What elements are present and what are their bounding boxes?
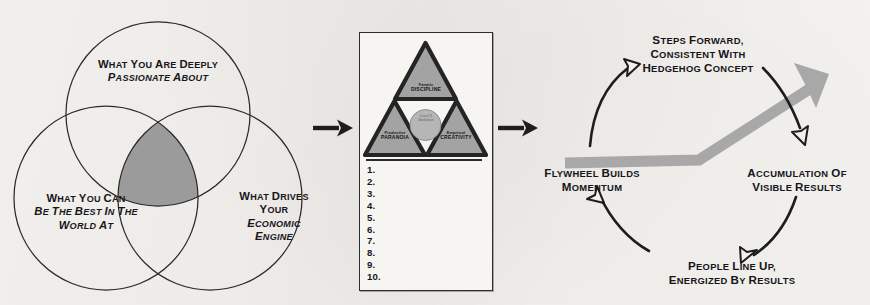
list-item[interactable]: 7. <box>367 235 477 247</box>
flywheel-label-line: HEDGEHOG CONCEPT <box>608 61 788 75</box>
flywheel-label-steps-forward: STEPS FORWARD, CONSISTENT WITH HEDGEHOG … <box>608 33 788 75</box>
list-item[interactable]: 3. <box>367 188 477 200</box>
flywheel-label-line: ACCUMULATION OF <box>726 166 868 180</box>
list-item[interactable]: 1. <box>367 164 477 176</box>
connector-arrow-2-icon <box>497 113 541 143</box>
flywheel-label-line: PEOPLE LINE UP, <box>648 259 816 273</box>
venn-label-line: ECONOMIC <box>222 217 326 230</box>
growth-arrow <box>565 63 829 163</box>
venn-label-line: WHAT YOU CAN <box>20 192 152 205</box>
list-item[interactable]: 8. <box>367 247 477 259</box>
connector-arrow-1-icon <box>312 113 356 143</box>
venn-label-passionate: WHAT YOU ARE DEEPLY PASSIONATE ABOUT <box>80 58 236 85</box>
venn-svg <box>8 6 308 302</box>
flywheel-label-momentum: FLYWHEEL BUILDS MOMENTUM <box>524 166 660 194</box>
venn-label-line: PASSIONATE ABOUT <box>80 71 236 84</box>
hedgehog-concept-venn: WHAT YOU ARE DEEPLY PASSIONATE ABOUT WHA… <box>8 6 308 302</box>
flywheel-label-line: MOMENTUM <box>524 180 660 194</box>
flywheel-label-line: FLYWHEEL BUILDS <box>524 166 660 180</box>
triangle-discipline <box>395 43 456 99</box>
list-item[interactable]: 6. <box>367 224 477 236</box>
flywheel-label-accumulation: ACCUMULATION OF VISIBLE RESULTS <box>726 166 868 194</box>
venn-label-line: WHAT DRIVES <box>222 190 326 203</box>
venn-label-line: WHAT YOU ARE DEEPLY <box>80 58 236 71</box>
venn-label-line: YOUR <box>222 203 326 216</box>
list-item[interactable]: 5. <box>367 212 477 224</box>
list-item[interactable]: 4. <box>367 200 477 212</box>
flywheel-label-people-line-up: PEOPLE LINE UP, ENERGIZED BY RESULTS <box>648 259 816 287</box>
venn-label-line: BE THE BEST IN THE <box>20 205 152 218</box>
flywheel-label-line: STEPS FORWARD, <box>608 33 788 47</box>
list-divider-rule <box>366 159 482 161</box>
diagram-page: WHAT YOU ARE DEEPLY PASSIONATE ABOUT WHA… <box>0 0 870 305</box>
list-item[interactable]: 10. <box>367 271 477 283</box>
numbered-list: 1. 2. 3. 4. 5. 6. 7. 8. 9. 10. <box>367 164 477 283</box>
venn-label-line: WORLD AT <box>20 219 152 232</box>
center-circle-level5-ambition <box>410 110 441 141</box>
flywheel-label-line: VISIBLE RESULTS <box>726 180 868 194</box>
list-item[interactable]: 9. <box>367 259 477 271</box>
venn-label-best-in-world: WHAT YOU CAN BE THE BEST IN THE WORLD AT <box>20 192 152 232</box>
flywheel-label-line: CONSISTENT WITH <box>608 47 788 61</box>
venn-label-economic-engine: WHAT DRIVES YOUR ECONOMIC ENGINE <box>222 190 326 243</box>
flywheel-label-line: ENERGIZED BY RESULTS <box>648 273 816 287</box>
triangle-svg <box>363 37 488 157</box>
venn-label-line: ENGINE <box>222 230 326 243</box>
list-item[interactable]: 2. <box>367 176 477 188</box>
great-by-choice-triangle-panel: Fanatic DISCIPLINE Productive PARANOIA E… <box>359 32 493 291</box>
